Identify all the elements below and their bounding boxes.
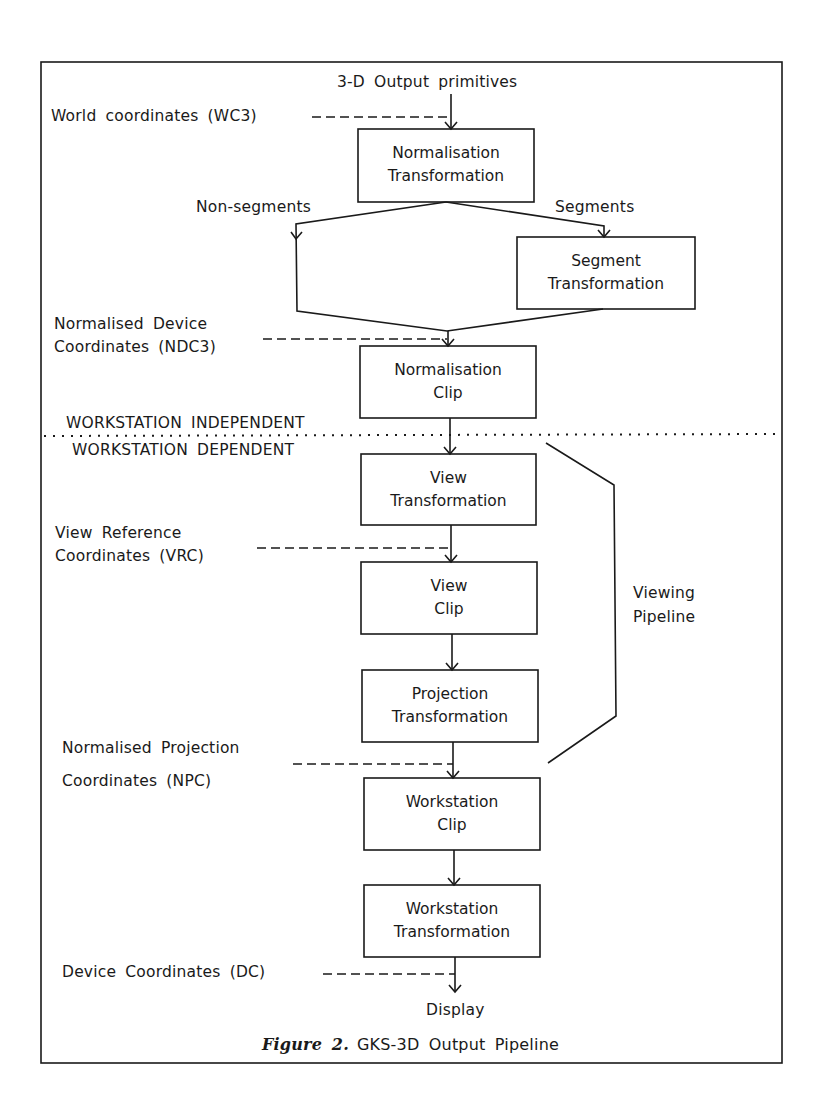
divider-label-independent: WORKSTATION INDEPENDENT <box>66 413 305 433</box>
box-label-workstation-clip: Workstation Clip <box>364 791 540 837</box>
label-vrc-line1: View Reference <box>55 523 182 543</box>
divider-label-dependent: WORKSTATION DEPENDENT <box>72 440 294 460</box>
label-npc-line1: Normalised Projection <box>62 738 240 758</box>
label-wc3: World coordinates (WC3) <box>51 106 257 126</box>
label-npc-line2: Coordinates (NPC) <box>62 771 211 791</box>
output-label: Display <box>426 1000 485 1020</box>
box-label-workstation-transformation: Workstation Transformation <box>364 898 540 944</box>
label-ndc3-line2: Coordinates (NDC3) <box>54 337 216 357</box>
label-dc: Device Coordinates (DC) <box>62 962 265 982</box>
input-label: 3-D Output primitives <box>337 72 517 92</box>
label-vrc-line2: Coordinates (VRC) <box>55 546 204 566</box>
branch-label-non-segments: Non-segments <box>196 197 311 217</box>
box-label-view-transformation: View Transformation <box>361 467 536 513</box>
box-label-view-clip: View Clip <box>361 575 537 621</box>
caption-text: GKS-3D Output Pipeline <box>357 1035 559 1054</box>
box-label-normalisation-transformation: Normalisation Transformation <box>358 142 534 188</box>
viewing-pipeline-label-line2: Pipeline <box>633 607 695 627</box>
figure-caption: Figure 2.GKS-3D Output Pipeline <box>262 1035 559 1055</box>
caption-figure-number: Figure 2. <box>262 1035 349 1054</box>
box-label-normalisation-clip: Normalisation Clip <box>360 359 536 405</box>
label-ndc3-line1: Normalised Device <box>54 314 207 334</box>
box-label-projection-transformation: Projection Transformation <box>362 683 538 729</box>
viewing-pipeline-label-line1: Viewing <box>633 583 695 603</box>
branch-label-segments: Segments <box>555 197 634 217</box>
box-label-segment-transformation: Segment Transformation <box>517 250 695 296</box>
